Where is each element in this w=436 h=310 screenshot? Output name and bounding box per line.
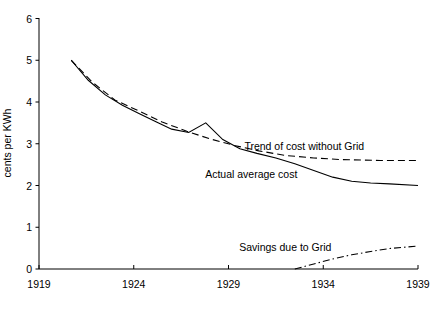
savings-label: Savings due to Grid (239, 241, 331, 253)
y-tick-label: 3 (18, 138, 32, 150)
chart-container: cents per KWh 19191924192919341939 01234… (0, 0, 436, 310)
x-tick-label: 1924 (122, 278, 145, 290)
actual-label: Actual average cost (205, 168, 297, 180)
y-tick-label: 1 (18, 221, 32, 233)
x-tick-label: 1939 (406, 278, 429, 290)
y-tick-label: 5 (18, 54, 32, 66)
x-tick-label: 1934 (312, 278, 335, 290)
y-axis-title: cents per KWh (1, 63, 13, 223)
trend-label: Trend of cost without Grid (244, 140, 364, 152)
chart-plot-area (0, 0, 436, 310)
x-axis-ticks (39, 265, 418, 269)
y-tick-label: 4 (18, 96, 32, 108)
y-tick-label: 2 (18, 180, 32, 192)
x-tick-label: 1919 (27, 278, 50, 290)
series-line-actual-average-cost (71, 60, 418, 185)
data-series-group (71, 60, 418, 269)
y-tick-label: 0 (18, 263, 32, 275)
x-tick-label: 1929 (217, 278, 240, 290)
y-tick-label: 6 (18, 13, 32, 25)
y-axis-ticks (36, 19, 40, 270)
